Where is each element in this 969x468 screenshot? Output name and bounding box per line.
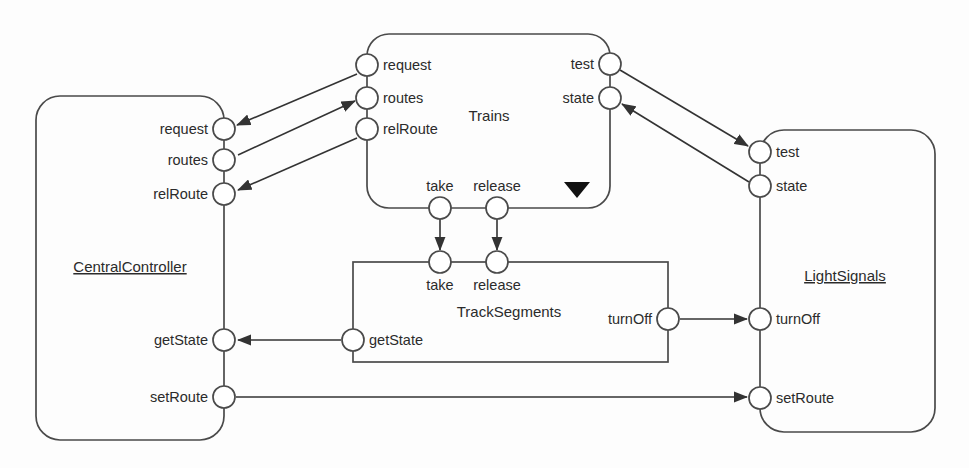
component-boxes-layer	[36, 34, 935, 440]
port-label-cc-routes: routes	[168, 152, 208, 168]
port-circle-ts-take[interactable]	[429, 251, 451, 273]
port-circle-ls-turnoff[interactable]	[749, 308, 771, 330]
port-tr-test[interactable]: test	[571, 53, 621, 75]
connector-conn-relroute[interactable]	[238, 138, 357, 190]
port-label-tr-release: release	[473, 178, 521, 194]
port-cc-setroute[interactable]: setRoute	[150, 386, 235, 408]
port-ls-turnoff[interactable]: turnOff	[749, 308, 821, 330]
port-circle-tr-state[interactable]	[599, 87, 621, 109]
port-label-tr-request: request	[383, 57, 431, 73]
port-ls-test[interactable]: test	[749, 141, 799, 163]
port-label-ls-state: state	[776, 178, 807, 194]
down-triangle-icon	[564, 182, 590, 198]
port-circle-tr-test[interactable]	[599, 53, 621, 75]
port-circle-cc-getstate[interactable]	[213, 329, 235, 351]
port-tr-state[interactable]: state	[563, 87, 621, 109]
port-circle-ls-state[interactable]	[749, 175, 771, 197]
port-circle-ls-test[interactable]	[749, 141, 771, 163]
port-label-tr-relroute: relRoute	[383, 121, 438, 137]
port-circle-cc-routes[interactable]	[213, 149, 235, 171]
port-circle-tr-routes[interactable]	[356, 87, 378, 109]
port-label-tr-routes: routes	[383, 90, 423, 106]
port-tr-release[interactable]: release	[473, 178, 521, 219]
port-ts-take[interactable]: take	[426, 251, 453, 293]
port-tr-routes[interactable]: routes	[356, 87, 423, 109]
connector-conn-test[interactable]	[620, 70, 748, 146]
component-title-track-segments: TrackSegments	[457, 303, 561, 320]
component-title-light-signals: LightSignals	[804, 267, 886, 284]
port-circle-tr-relroute[interactable]	[356, 118, 378, 140]
port-circle-tr-release[interactable]	[486, 197, 508, 219]
port-ts-getstate[interactable]: getState	[342, 329, 423, 351]
port-label-ls-setroute: setRoute	[776, 390, 834, 406]
port-cc-relroute[interactable]: relRoute	[153, 183, 235, 205]
port-ts-release[interactable]: release	[473, 251, 521, 293]
port-circle-tr-take[interactable]	[429, 197, 451, 219]
port-cc-routes[interactable]: routes	[168, 149, 235, 171]
port-label-ls-test: test	[776, 144, 799, 160]
port-circle-ts-getstate[interactable]	[342, 329, 364, 351]
port-label-ls-turnoff: turnOff	[776, 311, 821, 327]
port-cc-request[interactable]: request	[160, 118, 235, 140]
port-label-ts-take: take	[426, 277, 453, 293]
component-diagram-canvas: requestroutesrelRoutegetStatesetRoutereq…	[0, 0, 969, 468]
port-label-tr-state: state	[563, 90, 594, 106]
port-circle-cc-request[interactable]	[213, 118, 235, 140]
markers-layer	[564, 182, 590, 198]
port-label-ts-turnoff: turnOff	[608, 311, 653, 327]
port-tr-request[interactable]: request	[356, 54, 431, 76]
port-circle-tr-request[interactable]	[356, 54, 378, 76]
port-label-ts-release: release	[473, 277, 521, 293]
port-cc-getstate[interactable]: getState	[154, 329, 235, 351]
port-ls-setroute[interactable]: setRoute	[749, 387, 834, 409]
component-title-central-controller: CentralController	[73, 258, 186, 275]
connector-conn-request[interactable]	[237, 74, 357, 125]
port-circle-ts-release[interactable]	[486, 251, 508, 273]
port-ts-turnoff[interactable]: turnOff	[608, 308, 679, 330]
port-label-tr-test: test	[571, 56, 594, 72]
port-circle-cc-setroute[interactable]	[213, 386, 235, 408]
port-label-cc-request: request	[160, 121, 208, 137]
port-circle-ts-turnoff[interactable]	[657, 308, 679, 330]
port-label-cc-setroute: setRoute	[150, 389, 208, 405]
component-title-trains: Trains	[468, 107, 509, 124]
port-ls-state[interactable]: state	[749, 175, 807, 197]
diagram-svg: requestroutesrelRoutegetStatesetRoutereq…	[0, 0, 969, 468]
port-circle-ls-setroute[interactable]	[749, 387, 771, 409]
port-circle-cc-relroute[interactable]	[213, 183, 235, 205]
port-label-tr-take: take	[426, 178, 453, 194]
port-tr-take[interactable]: take	[426, 178, 453, 219]
port-label-cc-getstate: getState	[154, 332, 208, 348]
port-label-cc-relroute: relRoute	[153, 186, 208, 202]
port-tr-relroute[interactable]: relRoute	[356, 118, 438, 140]
port-label-ts-getstate: getState	[369, 332, 423, 348]
connector-conn-state[interactable]	[622, 104, 749, 182]
